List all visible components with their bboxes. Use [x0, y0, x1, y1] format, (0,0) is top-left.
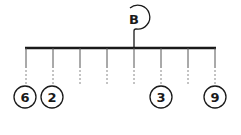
svg-text:3: 3: [156, 90, 165, 105]
weight-9: 9: [204, 86, 226, 108]
mobile-diagram: B 6 2 3 9: [0, 0, 241, 135]
hanger-label: B: [129, 12, 139, 27]
weight-2: 2: [41, 86, 63, 108]
svg-text:2: 2: [47, 90, 56, 105]
weight-6: 6: [14, 86, 36, 108]
hook-lines: [26, 48, 215, 84]
svg-text:6: 6: [20, 90, 29, 105]
weight-3: 3: [150, 86, 172, 108]
svg-text:9: 9: [210, 90, 219, 105]
